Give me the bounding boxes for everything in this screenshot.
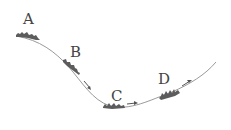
- track-diagram: [0, 0, 231, 130]
- label-d: D: [158, 72, 170, 87]
- arrow-c-icon: [127, 101, 138, 105]
- label-c: C: [111, 89, 122, 104]
- object-b-icon: [63, 59, 80, 75]
- object-d-icon: [159, 89, 180, 100]
- arrow-b-icon: [84, 81, 91, 90]
- label-b: B: [70, 45, 81, 60]
- label-a: A: [23, 12, 34, 27]
- diagram-canvas: A B C D: [0, 0, 231, 130]
